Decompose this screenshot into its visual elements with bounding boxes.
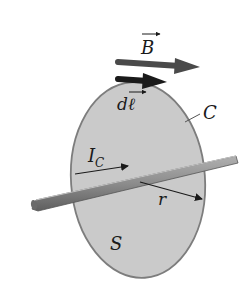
label-b: B [140, 37, 154, 58]
b-field-arrow [118, 58, 200, 74]
label-dl: dℓ [117, 94, 135, 114]
label-s: S [110, 233, 122, 254]
ampere-law-diagram: B dℓ C I C r S [0, 0, 249, 300]
label-c: C [203, 102, 217, 123]
label-r: r [158, 189, 167, 209]
label-i-sub: C [95, 156, 104, 170]
